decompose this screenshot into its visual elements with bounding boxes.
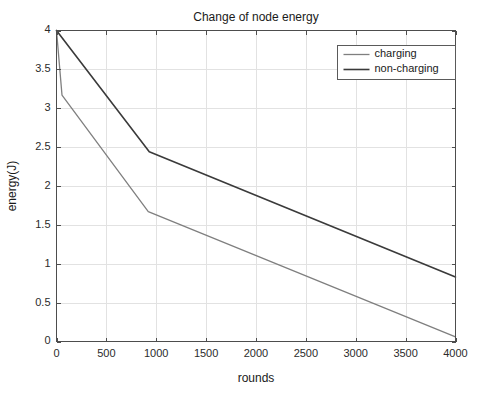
y-tick-label: 4 [44, 23, 50, 35]
x-tick-label: 0 [53, 347, 59, 359]
line-chart: 0500100015002000250030003500400000.511.5… [0, 0, 485, 396]
y-tick-label: 2 [44, 179, 50, 191]
y-tick-label: 3 [44, 101, 50, 113]
y-tick-label: 0 [44, 334, 50, 346]
x-tick-label: 500 [97, 347, 115, 359]
x-tick-label: 1500 [194, 347, 218, 359]
x-tick-label: 1000 [144, 347, 168, 359]
y-tick-label: 3.5 [35, 62, 50, 74]
y-tick-label: 0.5 [35, 296, 50, 308]
y-tick-label: 2.5 [35, 140, 50, 152]
x-tick-label: 3000 [344, 347, 368, 359]
legend-label-non-charging: non-charging [375, 62, 439, 74]
x-tick-label: 3500 [393, 347, 417, 359]
x-tick-label: 2000 [244, 347, 268, 359]
chart-title: Change of node energy [193, 10, 318, 24]
chart-legend[interactable]: chargingnon-charging [337, 45, 455, 79]
x-tick-label: 4000 [443, 347, 467, 359]
y-axis-label: energy(J) [5, 161, 19, 212]
x-tick-label: 2500 [294, 347, 318, 359]
y-tick-label: 1.5 [35, 218, 50, 230]
figure-canvas: 0500100015002000250030003500400000.511.5… [0, 0, 485, 396]
y-tick-label: 1 [44, 257, 50, 269]
legend-label-charging: charging [375, 47, 417, 59]
x-axis-label: rounds [238, 371, 275, 385]
